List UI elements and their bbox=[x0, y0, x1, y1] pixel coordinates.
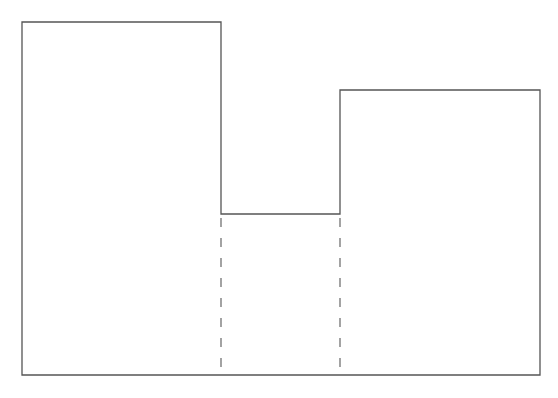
block-outline bbox=[22, 22, 540, 375]
step-diagram bbox=[0, 0, 558, 398]
dashed-boundaries bbox=[221, 218, 340, 375]
